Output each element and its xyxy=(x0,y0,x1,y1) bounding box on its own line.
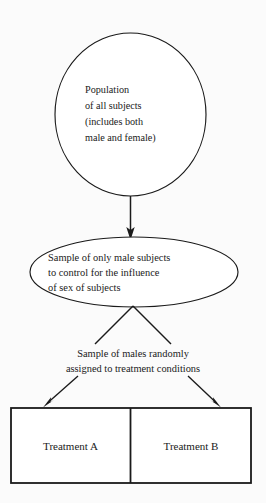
branch-split-left-line xyxy=(95,306,133,344)
arrow-to-treatment-b xyxy=(188,376,221,408)
population-circle-shape xyxy=(55,33,206,196)
sample-node-line-2: to control for the influence xyxy=(48,267,160,278)
treatment-b-label: Treatment B xyxy=(164,440,219,452)
treatment-boxes-group: Treatment A Treatment B xyxy=(11,408,251,483)
flow-diagram-canvas: Population of all subjects (includes bot… xyxy=(0,0,266,503)
population-node: Population of all subjects (includes bot… xyxy=(55,33,206,196)
arrow-to-treatment-b-line xyxy=(188,376,217,403)
assignment-label-line-1: Sample of males randomly xyxy=(77,348,189,359)
population-node-line-1: Population xyxy=(85,84,129,95)
diagram-root: Population of all subjects (includes bot… xyxy=(0,0,266,503)
population-node-line-3: (includes both xyxy=(85,116,143,128)
sample-node-line-3: of sex of subjects xyxy=(48,282,120,293)
branch-split-right-line xyxy=(133,306,171,344)
assignment-label: Sample of males randomly assigned to tre… xyxy=(66,348,200,374)
arrow-population-to-sample xyxy=(126,196,134,240)
assignment-label-line-2: assigned to treatment conditions xyxy=(66,363,200,374)
population-node-line-4: male and female) xyxy=(85,132,156,144)
treatment-a-label: Treatment A xyxy=(43,440,98,452)
sample-node: Sample of only male subjects to control … xyxy=(30,237,238,307)
branch-split-from-sample xyxy=(95,306,171,344)
arrow-to-treatment-a xyxy=(43,376,78,408)
sample-node-line-1: Sample of only male subjects xyxy=(48,252,170,263)
arrow-to-treatment-a-line xyxy=(48,376,79,403)
population-node-line-2: of all subjects xyxy=(85,100,142,111)
